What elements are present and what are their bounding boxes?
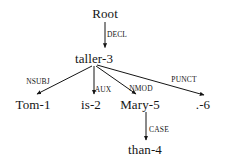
- node-is-2: is-2: [81, 98, 101, 111]
- dependency-tree-diagram: Root taller-3 Tom-1 is-2 Mary-5 .-6 than…: [0, 0, 225, 161]
- edge-label-punct: PUNCT: [171, 76, 196, 84]
- edge-label-case: CASE: [149, 126, 169, 134]
- node-mary-5: Mary-5: [120, 98, 160, 111]
- node-tom-1: Tom-1: [16, 98, 51, 111]
- edge-label-nmod: NMOD: [129, 85, 153, 93]
- node-root: Root: [92, 7, 118, 20]
- node-than-4: than-4: [128, 143, 162, 156]
- node-taller-3: taller-3: [75, 52, 113, 65]
- edge-label-nsubj: NSUBJ: [26, 78, 50, 86]
- edge-label-aux: AUX: [95, 86, 112, 94]
- node-punct-6: .-6: [196, 98, 210, 111]
- edge-label-decl: DECL: [107, 31, 127, 39]
